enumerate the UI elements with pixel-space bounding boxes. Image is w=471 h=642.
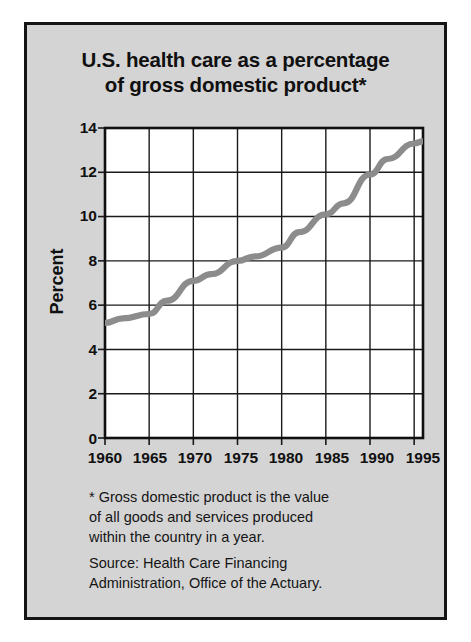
x-tick-label-1980: 1980 bbox=[262, 449, 310, 467]
y-tick-label-12: 12 bbox=[67, 163, 97, 181]
plot-background bbox=[105, 128, 423, 438]
y-tick-label-6: 6 bbox=[67, 296, 97, 314]
axis-ticks bbox=[98, 128, 414, 445]
x-tick-label-1965: 1965 bbox=[126, 449, 174, 467]
x-tick-label-1975: 1975 bbox=[217, 449, 265, 467]
y-tick-label-8: 8 bbox=[67, 252, 97, 270]
x-tick-label-1960: 1960 bbox=[81, 449, 129, 467]
footnote-text: * Gross domestic product is the value of… bbox=[89, 487, 419, 547]
x-tick-label-1985: 1985 bbox=[308, 449, 356, 467]
data-series-line bbox=[105, 141, 423, 323]
chart-panel: U.S. health care as a percentage of gros… bbox=[24, 22, 447, 620]
y-tick-label-2: 2 bbox=[67, 385, 97, 403]
plot-border bbox=[105, 128, 423, 438]
y-tick-label-4: 4 bbox=[67, 341, 97, 359]
y-tick-label-10: 10 bbox=[67, 207, 97, 225]
x-tick-label-1990: 1990 bbox=[353, 449, 401, 467]
y-tick-label-14: 14 bbox=[67, 119, 97, 137]
y-tick-label-0: 0 bbox=[67, 430, 97, 448]
x-tick-label-1995: 1995 bbox=[399, 449, 447, 467]
x-tick-label-1970: 1970 bbox=[171, 449, 219, 467]
gridlines bbox=[105, 128, 423, 438]
source-text: Source: Health Care Financing Administra… bbox=[89, 553, 419, 593]
y-axis-label: Percent bbox=[47, 222, 68, 342]
